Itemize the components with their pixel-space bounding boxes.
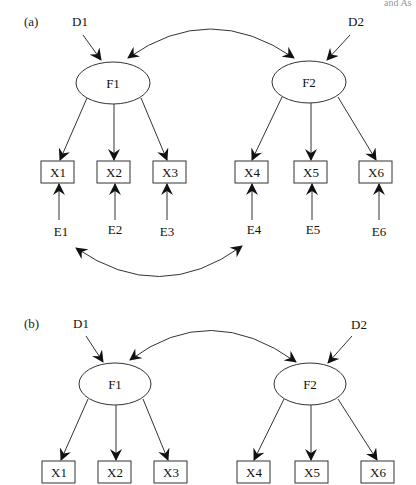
- loading-f2-x6-b: [338, 399, 377, 460]
- loading-f1-x1-b: [61, 399, 88, 460]
- loading-f1-x1: [60, 98, 87, 160]
- factor-f2-b-label: F2: [303, 377, 317, 392]
- error-e3: E3: [160, 224, 174, 239]
- factor-f1-label: F1: [106, 76, 120, 91]
- indicator-x6-label: X6: [368, 165, 384, 180]
- indicator-x6-b-label: X6: [370, 465, 386, 480]
- indicator-x5-b-label: X5: [304, 465, 320, 480]
- loading-f2-x6: [338, 97, 376, 160]
- panel-b: (b) D1 D2 F1 F2 X1 X2 X3 X4 X5 X6: [24, 316, 394, 483]
- error-e2: E2: [108, 222, 122, 237]
- indicator-x4-label: X4: [244, 165, 260, 180]
- factor-correlation-arrow: [128, 29, 294, 58]
- cropped-text: and As: [384, 0, 412, 8]
- d1-arrow-b: [86, 336, 103, 362]
- indicator-x1-label: X1: [50, 165, 66, 180]
- factor-f1-b-label: F1: [108, 377, 122, 392]
- factor-f2-label: F2: [302, 75, 316, 90]
- indicator-x4-b-label: X4: [246, 465, 262, 480]
- error-e5: E5: [306, 222, 320, 237]
- disturbance-d1-b: D1: [73, 316, 89, 331]
- loading-f1-x3: [141, 98, 167, 160]
- factor-correlation-arrow-b: [130, 330, 296, 362]
- loading-f2-x4-b: [254, 399, 284, 460]
- indicator-x2-label: X2: [106, 165, 122, 180]
- d1-arrow: [83, 35, 101, 60]
- indicator-x3-b-label: X3: [163, 465, 179, 480]
- disturbance-d2: D2: [348, 14, 364, 29]
- d2-arrow-b: [328, 336, 352, 363]
- error-correlation-arrow: [76, 246, 242, 277]
- indicator-x2-b-label: X2: [107, 465, 123, 480]
- indicator-x3-label: X3: [162, 165, 178, 180]
- d2-arrow: [327, 35, 350, 60]
- panel-b-label: (b): [24, 316, 39, 331]
- indicator-x1-b-label: X1: [51, 465, 67, 480]
- disturbance-d2-b: D2: [351, 317, 367, 332]
- panel-a: (a) D1 D2 F1 F2 X1 X2 X3 X4 X5 X6: [24, 14, 392, 277]
- disturbance-d1: D1: [72, 14, 88, 29]
- loading-f2-x4: [252, 97, 282, 160]
- loading-f1-x3-b: [143, 399, 168, 460]
- sem-diagram: and As (a) D1 D2 F1 F2 X1 X2 X3 X4 X5: [0, 0, 416, 485]
- error-e6: E6: [372, 224, 387, 239]
- panel-a-label: (a): [24, 14, 38, 29]
- error-e1: E1: [54, 224, 68, 239]
- error-e4: E4: [247, 222, 262, 237]
- indicator-x5-label: X5: [303, 165, 319, 180]
